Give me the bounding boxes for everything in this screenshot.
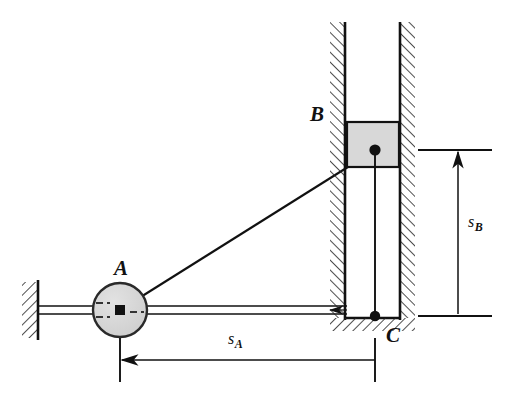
label-point-a: A	[114, 258, 128, 279]
label-point-b: B	[310, 104, 324, 125]
label-dimension-sa-subscript: A	[235, 337, 243, 351]
label-point-c: C	[386, 325, 400, 346]
left-fixed-support	[22, 280, 38, 340]
pin-b	[369, 144, 380, 155]
slider-block-b-body	[347, 122, 399, 167]
channel-right-wall-hatching	[400, 22, 415, 318]
left-support-hatching	[22, 282, 38, 338]
pulley-a	[93, 283, 147, 337]
vertical-guide-channel	[330, 22, 415, 331]
dimension-sa	[120, 338, 375, 382]
label-dimension-sb-base: s	[468, 213, 474, 230]
slider-block-b	[347, 122, 399, 167]
channel-left-wall-hatching	[330, 22, 345, 318]
horizontal-cable	[38, 306, 347, 314]
label-dimension-sb: sB	[468, 214, 482, 230]
kinematics-figure: A B C sA sB	[0, 0, 511, 404]
figure-drawing-canvas	[0, 0, 511, 404]
pulley-a-hub	[115, 305, 125, 315]
label-dimension-sb-subscript: B	[475, 220, 483, 234]
label-dimension-sa-base: s	[228, 330, 234, 347]
pin-c	[370, 311, 380, 321]
label-dimension-sa: sA	[228, 331, 242, 347]
